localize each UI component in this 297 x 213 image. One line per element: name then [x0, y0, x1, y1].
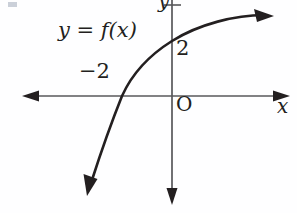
- function-label: y = f(x): [58, 20, 137, 41]
- origin-label: O: [176, 94, 192, 114]
- x-intercept-label: −2: [79, 61, 110, 82]
- curve-upper-arrowhead: [254, 9, 274, 22]
- x-axis-left-arrowhead: [22, 91, 39, 102]
- curve-lower-arrowhead: [84, 174, 98, 196]
- y-intercept-label: 2: [176, 38, 189, 59]
- function-label-operator: =: [70, 18, 101, 42]
- function-label-expression: f(x): [101, 18, 137, 42]
- graph-figure: y = f(x) 2 −2 O x y: [0, 0, 297, 213]
- y-axis-label: y: [158, 0, 169, 11]
- function-label-variable: y: [58, 18, 70, 42]
- y-axis-bottom-arrowhead: [167, 188, 178, 205]
- graph-canvas: [0, 0, 297, 213]
- x-axis-label: x: [277, 96, 288, 116]
- x-axis: [22, 91, 290, 102]
